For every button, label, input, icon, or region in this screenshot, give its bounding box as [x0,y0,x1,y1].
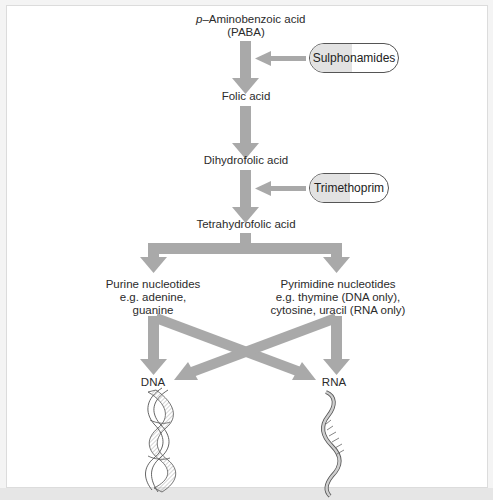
arrow-folic-to-dihydrofolic [232,106,259,159]
node-dihydrofolic-acid: Dihydrofolic acid [186,154,306,167]
node-dna: DNA [138,376,168,389]
inhibitor-trimethoprim: Trimethoprim [309,173,389,203]
node-pyrimidine-nucleotides: Pyrimidine nucleotides e.g. thymine (DNA… [268,278,408,317]
purine-line-1: Purine nucleotides [93,278,213,291]
arrow-tetrahydrofolic-branch [140,233,350,273]
inhibitor-sulphonamides: Sulphonamides [309,43,399,73]
node-rna: RNA [319,376,349,389]
rna-single-strand-icon [323,392,344,496]
paba-abbrev: (PABA) [196,26,296,39]
pyrimidine-line-2: e.g. thymine (DNA only), [268,291,408,304]
node-paba: p–Aminobenzoic acid (PABA) [196,13,296,39]
arrow-pyrimidine-to-dna [192,318,336,372]
arrow-dihydrofolic-to-tetrahydrofolic [232,170,259,223]
purine-line-2: e.g. adenine, [93,291,213,304]
paba-name-rest: –Aminobenzoic acid [202,13,305,25]
arrow-paba-to-folic [232,41,259,94]
node-purine-nucleotides: Purine nucleotides e.g. adenine, guanine [93,278,213,317]
pathway-arrows [0,0,493,500]
dna-double-helix-icon [146,388,176,492]
pyrimidine-line-3: cytosine, uracil (RNA only) [268,304,408,317]
node-tetrahydrofolic-acid: Tetrahydrofolic acid [180,218,312,231]
sulphonamides-label: Sulphonamides [310,44,398,72]
arrow-trimethoprim-inhibit [255,181,306,196]
node-folic-acid: Folic acid [196,90,296,103]
pyrimidine-line-1: Pyrimidine nucleotides [268,278,408,291]
arrow-sulphonamides-inhibit [255,51,306,66]
paba-name: p–Aminobenzoic acid [196,13,296,26]
arrow-purine-to-rna [156,318,300,372]
purine-line-3: guanine [93,304,213,317]
trimethoprim-label: Trimethoprim [310,174,388,202]
